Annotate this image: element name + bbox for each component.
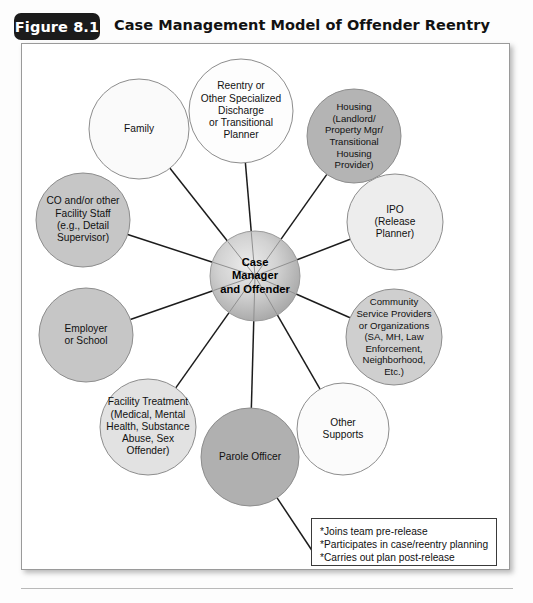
- spoke-housing: [280, 174, 327, 241]
- spoke-ipo-release-planner: [295, 239, 350, 260]
- legend-item: *Participates in case/reentry planning: [320, 538, 496, 551]
- legend-item: *Joins team pre-release: [320, 525, 496, 538]
- circle-parole-officer[interactable]: [201, 408, 299, 506]
- diagram-canvas: [22, 44, 510, 570]
- figure-header: Figure 8.1 Case Management Model of Offe…: [14, 13, 519, 40]
- spoke-employer-or-school: [130, 290, 214, 319]
- circle-facility-treatment[interactable]: [100, 379, 196, 475]
- circle-family[interactable]: [89, 79, 189, 179]
- circle-community-service-providers[interactable]: [346, 289, 442, 385]
- circle-housing[interactable]: [307, 89, 401, 183]
- spoke-other-supports: [276, 313, 320, 389]
- figure-root: Figure 8.1 Case Management Model of Offe…: [0, 0, 533, 603]
- spoke-parole-officer: [251, 319, 253, 408]
- legend-box: *Joins team pre-release*Participates in …: [311, 518, 497, 566]
- legend-list: *Joins team pre-release*Participates in …: [312, 519, 496, 565]
- circle-ipo-release-planner[interactable]: [347, 174, 443, 270]
- figure-title: Case Management Model of Offender Reentr…: [114, 17, 490, 33]
- circle-co-facility-staff[interactable]: [36, 173, 130, 267]
- circle-other-supports[interactable]: [297, 383, 389, 475]
- circle-employer-or-school[interactable]: [39, 288, 133, 382]
- legend-connector-line: [277, 498, 313, 552]
- spoke-co-facility-staff: [128, 235, 214, 263]
- spoke-facility-treatment: [176, 311, 230, 388]
- legend-item: *Carries out plan post-release: [320, 551, 496, 564]
- spoke-reentry-planner: [245, 163, 251, 233]
- legend-connector: [277, 498, 313, 552]
- spoke-family: [170, 168, 228, 242]
- figure-number-label: Figure 8.1: [14, 13, 100, 40]
- spoke-community-service-providers: [294, 293, 350, 317]
- circle-reentry-planner[interactable]: [189, 59, 293, 163]
- bottom-divider: [21, 588, 513, 589]
- figure-panel: Reentry orOther SpecializedDischargeor T…: [21, 43, 510, 570]
